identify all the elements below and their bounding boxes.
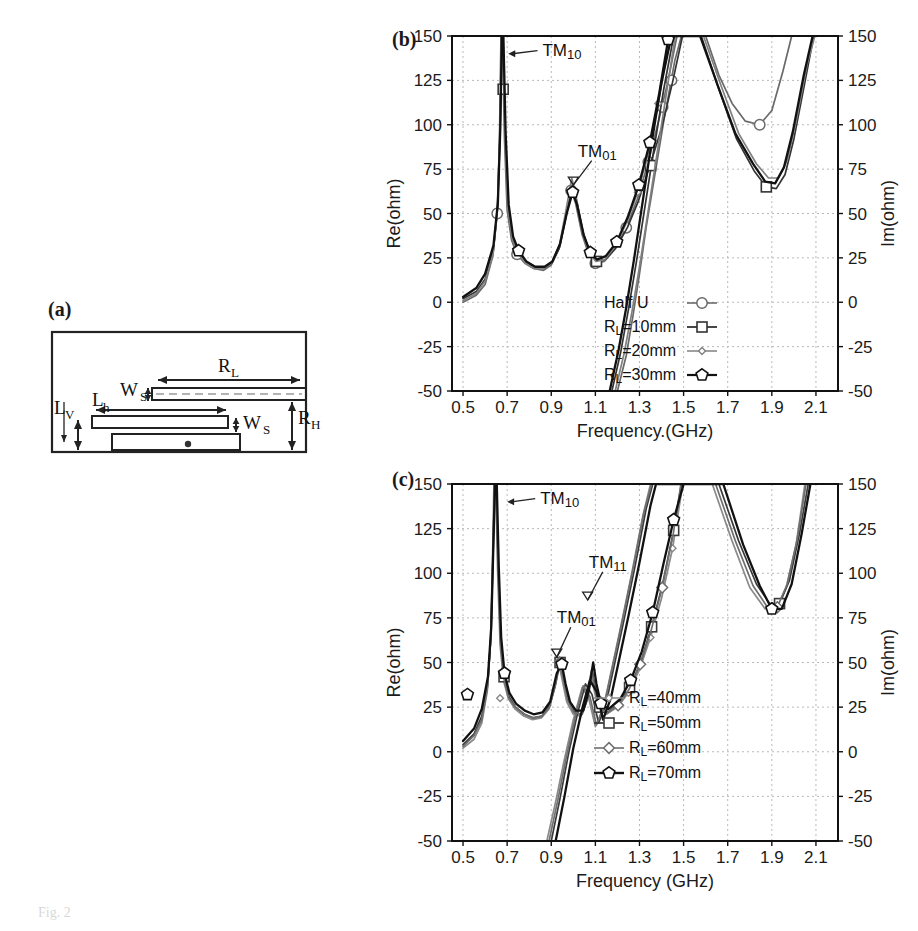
ytick-right-75: 75 [848,160,867,179]
annotation-arrowhead [583,592,593,600]
ytick-left-100: 100 [414,116,442,135]
marker-pentagon [603,767,615,778]
annotation-TM10: TM10 [507,489,579,510]
yaxis-label-right: Im(ohm) [878,629,898,696]
ytick-left--50: -50 [417,382,442,401]
xtick-1.3: 1.3 [628,398,652,417]
ytick-left-100: 100 [414,564,442,583]
annotation-sub: 01 [602,148,616,163]
ytick-right-150: 150 [848,475,876,494]
legend-item-RL=10mm: RL=10mm [604,318,717,338]
ytick-left-75: 75 [423,160,442,179]
dim-Lh-sub: h [103,400,110,415]
ytick-right-0: 0 [848,743,857,762]
ytick-right-125: 125 [848,71,876,90]
circle-marker [754,120,764,130]
ytick-left-0: 0 [433,293,442,312]
ytick-right-0: 0 [848,293,857,312]
xtick-0.9: 0.9 [539,848,563,867]
marker-circle [697,298,707,308]
xtick-0.7: 0.7 [495,398,519,417]
xtick-0.5: 0.5 [451,848,475,867]
ytick-right-50: 50 [848,205,867,224]
annotation-base: TM [542,41,567,60]
annotation-TM01: TM01 [568,142,616,185]
ytick-left-150: 150 [414,27,442,46]
curve-im-RL=20mm [615,36,815,391]
legend-rest: =70mm [647,764,701,781]
ytick-right--50: -50 [848,382,873,401]
legend-item-RL=20mm: RL=20mm [604,342,717,362]
panel-a-schematic: (a) R L R [40,300,380,490]
ytick-left-75: 75 [423,609,442,628]
annotation-sub: 01 [581,614,595,629]
legend-base: R [629,764,641,781]
dimension-Ws-top: W S [120,379,151,404]
legend-rest: =10mm [622,318,676,335]
ytick-left-125: 125 [414,71,442,90]
dim-RH-base: R [298,407,311,428]
annotation-TM01: TM01 [552,608,596,657]
pentagon-marker [499,667,511,678]
legend-base: R [604,342,616,359]
yaxis-label-left: Re(ohm) [384,627,404,697]
annotation-base: TM [557,608,582,627]
small-diamond-marker [497,695,504,702]
legend-base: R [629,689,641,706]
marker-pentagon [696,369,708,380]
ytick-left-25: 25 [423,249,442,268]
ytick-left--25: -25 [417,338,442,357]
panel-c-svg: -50-50-25-250025255050757510010012512515… [380,462,918,912]
annotation-arrow [512,51,537,54]
square-marker [697,322,707,332]
xtick-1.7: 1.7 [716,848,740,867]
legend-base: R [604,366,616,383]
feed-point [185,441,191,447]
xtick-0.5: 0.5 [451,398,475,417]
xtick-1.5: 1.5 [672,848,696,867]
legend-label-RL=10mm: RL=10mm [604,318,676,338]
annotation-base: TM [589,553,614,572]
marker-circle [754,120,764,130]
figure-root: (a) R L R [0,0,918,931]
annotation-sub: 10 [567,47,581,62]
circle-marker [697,298,707,308]
ytick-right--25: -25 [848,338,873,357]
xaxis-label: Frequency (GHz) [576,871,714,891]
ytick-left-50: 50 [423,654,442,673]
marker-square [697,322,707,332]
ytick-right-25: 25 [848,249,867,268]
legend-item-RL=50mm: RL=50mm [594,714,701,734]
dimension-RH: R H [288,402,320,450]
ytick-right-150: 150 [848,27,876,46]
small-diamond-marker [699,348,706,355]
xtick-1.3: 1.3 [628,848,652,867]
ytick-left-125: 125 [414,520,442,539]
annotation-label-TM10: TM10 [542,41,581,62]
legend-base: R [629,714,641,731]
panel-a-label: (a) [48,298,71,321]
annotation-label-TM01: TM01 [557,608,596,629]
xtick-2.1: 2.1 [804,398,828,417]
ytick-right-125: 125 [848,520,876,539]
pentagon-marker [696,369,708,380]
legend-base: R [629,739,641,756]
pentagon-marker [603,767,615,778]
annotations: TM10TM01 [508,41,616,186]
curve-im-RL=50mm [551,484,808,841]
ytick-right--50: -50 [848,832,873,851]
legend-item-RL=70mm: RL=70mm [594,764,701,784]
marker-diamond-small [699,348,706,355]
panel-c-chart: -50-50-25-250025255050757510010012512515… [380,462,918,912]
curve-im-RL=40mm [547,484,805,841]
legend-item-Half U: Half U [604,294,717,311]
dim-Ws-top-base: W [120,379,138,400]
ytick-right-100: 100 [848,564,876,583]
annotation-base: TM [540,489,565,508]
xtick-1.9: 1.9 [760,848,784,867]
dim-Lv-sub: V [65,407,75,422]
annotation-label-TM10: TM10 [540,489,579,510]
dim-Ws-bottom-base: W [243,412,261,433]
marker-square [604,718,614,728]
annotation-arrow [511,499,535,502]
